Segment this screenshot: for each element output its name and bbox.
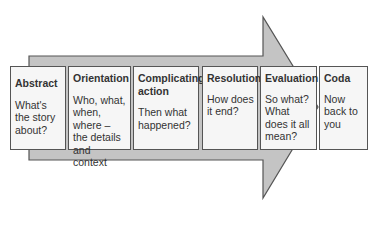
stage-title: Coda (324, 72, 364, 85)
stage-title: Orientation (73, 72, 127, 85)
stage-coda: Coda Now back to you (319, 66, 368, 150)
stage-text: Now back to you (324, 93, 364, 131)
stage-title: Abstract (15, 77, 62, 90)
stage-text: How does it end? (207, 93, 254, 118)
stage-text: Then what happened? (138, 106, 195, 131)
stage-title: Evaluation (265, 72, 313, 85)
stage-title: Resolution (207, 72, 254, 85)
stage-title: Complicating action (138, 72, 195, 97)
stage-abstract: Abstract What's the story about? (10, 66, 66, 150)
stage-text: So what? What does it all mean? (265, 93, 313, 143)
stage-complicating-action: Complicating action Then what happened? (133, 66, 199, 150)
stage-text: Who, what, when, where – the details and… (73, 94, 127, 169)
stage-resolution: Resolution How does it end? (202, 66, 258, 150)
stage-text: What's the story about? (15, 99, 62, 137)
stage-orientation: Orientation Who, what, when, where – the… (68, 66, 131, 150)
stage-evaluation: Evaluation So what? What does it all mea… (260, 66, 317, 150)
